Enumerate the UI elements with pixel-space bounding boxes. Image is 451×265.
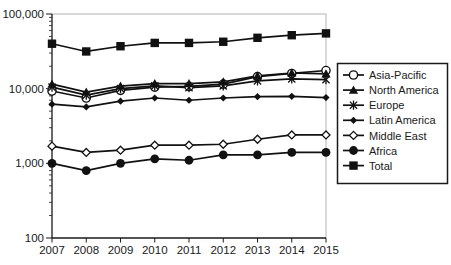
data-point-marker-square-filled [82,47,90,55]
data-point-marker-square-filled [116,42,124,50]
data-point-marker-circle-filled [150,154,159,163]
data-point-marker-circle-filled [219,150,228,159]
x-axis-tick-label: 2014 [279,244,305,256]
legend-item-label: Europe [369,99,404,111]
y-axis-tick-label: 1,000 [15,157,44,169]
legend-item-label: Middle East [369,130,426,142]
chart: 1001,00010,000100,0002007200820092010201… [0,0,451,265]
data-point-marker-square-filled [151,39,159,47]
x-axis-tick-label: 2011 [177,244,202,256]
data-point-marker-circle-filled [322,148,331,157]
data-point-marker-circle-filled [349,146,358,155]
data-point-marker-circle-filled [287,148,296,157]
legend-item-label: Asia-Pacific [369,69,427,81]
line-chart-svg: 1001,00010,000100,0002007200820092010201… [0,0,451,265]
legend-item-label: North America [369,84,440,96]
x-axis-tick-label: 2008 [73,244,99,256]
x-axis-tick-label: 2013 [245,244,271,256]
data-point-marker-square-filled [48,40,56,48]
y-axis-tick-label: 100 [25,232,44,244]
data-point-marker-square-filled [185,39,193,47]
data-point-marker-circle-filled [253,150,262,159]
legend-item-label: Total [369,160,392,172]
x-axis-tick-label: 2010 [142,244,168,256]
data-point-marker-square-filled [288,31,296,39]
data-point-marker-square-filled [322,29,330,37]
legend-item-label: Africa [369,145,398,157]
data-point-marker-square-filled [253,34,261,42]
x-axis-tick-label: 2009 [108,244,134,256]
y-axis-tick-label: 10,000 [9,83,44,95]
data-point-marker-circle-filled [185,156,194,165]
data-point-marker-circle-open [349,71,357,79]
legend: Asia-PacificNorth AmericaEuropeLatin Ame… [338,64,448,184]
data-point-marker-square-filled [219,38,227,46]
y-axis-tick-label: 100,000 [2,8,44,20]
legend-item-label: Latin America [369,114,437,126]
x-axis-tick-label: 2012 [210,244,236,256]
data-point-marker-circle-filled [82,166,91,175]
data-point-marker-square-filled [349,161,357,169]
x-axis-tick-label: 2015 [313,244,339,256]
data-point-marker-circle-filled [48,159,57,168]
x-axis-tick-label: 2007 [39,244,65,256]
data-point-marker-circle-filled [116,159,125,168]
